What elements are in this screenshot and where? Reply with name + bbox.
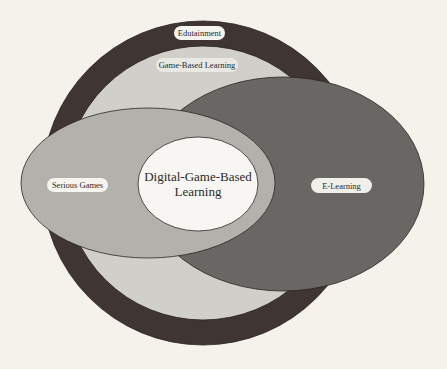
venn-diagram: Edutainment Game-Based Learning Serious … (0, 0, 447, 369)
serious-games-label: Serious Games (47, 178, 108, 192)
e-learning-label-text: E-Learning (322, 181, 361, 191)
e-learning-label: E-Learning (311, 178, 372, 193)
digital-game-based-learning-label-line1: Digital-Game-Based (144, 169, 252, 184)
serious-games-label-text: Serious Games (52, 180, 103, 190)
edutainment-label-text: Edutainment (178, 28, 222, 38)
game-based-learning-label-text: Game-Based Learning (159, 60, 236, 70)
game-based-learning-label: Game-Based Learning (156, 58, 238, 72)
digital-game-based-learning-label-line2: Learning (175, 184, 222, 199)
edutainment-label: Edutainment (174, 26, 225, 40)
